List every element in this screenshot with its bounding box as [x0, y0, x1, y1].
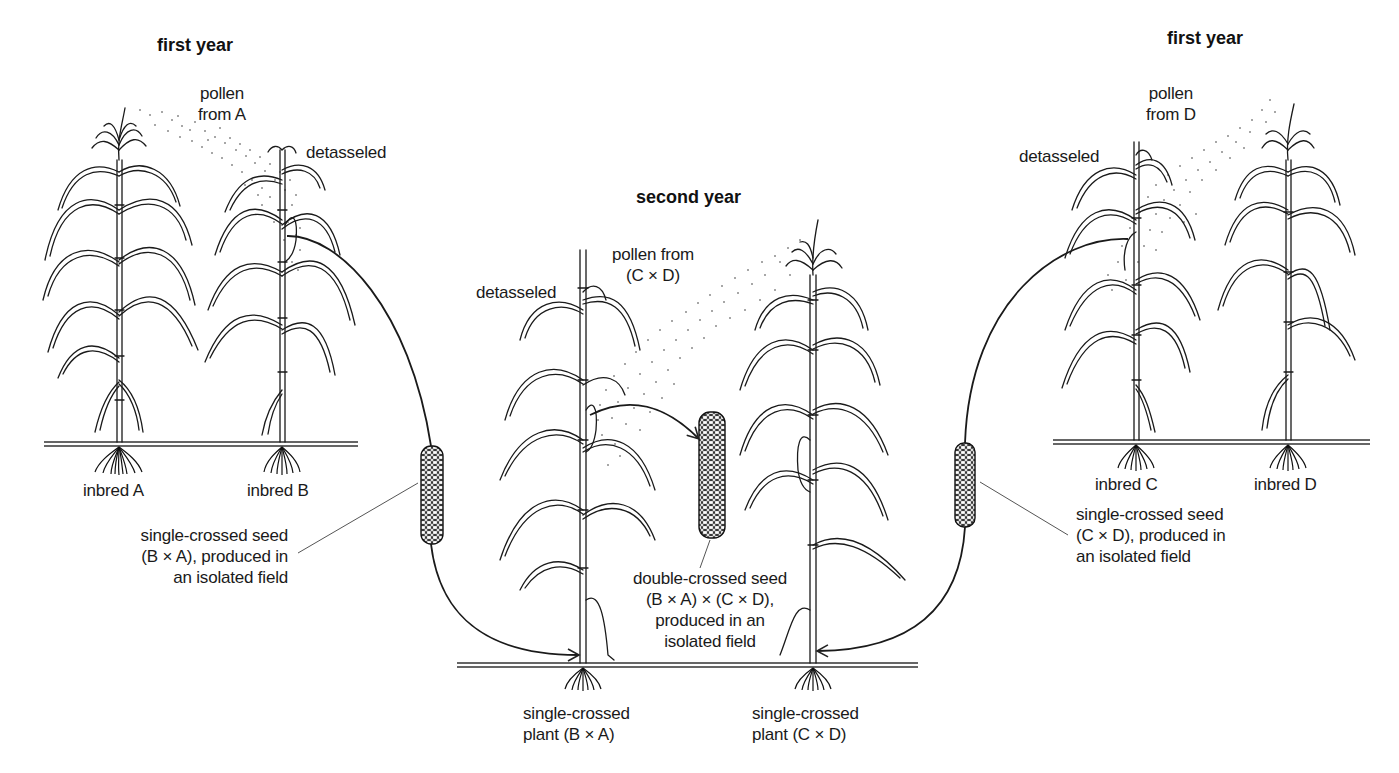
arrow-cob-to-plant-cd — [818, 527, 965, 651]
label-inbred-a: inbred A — [83, 480, 144, 501]
arrow-c-to-cob — [965, 239, 1128, 443]
cob-single-crossed-ba — [421, 446, 443, 544]
plant-inbred-d — [1218, 104, 1355, 440]
label-pollen-from-a: pollen from A — [198, 83, 246, 125]
arrow-b-to-cob — [287, 236, 431, 446]
cob-double-crossed — [699, 412, 725, 538]
cob-single-crossed-cd — [955, 443, 975, 527]
corn-cobs — [421, 412, 975, 544]
heading-first-year-left: first year — [157, 35, 233, 56]
label-detasseled-right: detasseled — [1019, 146, 1099, 167]
label-single-crossed-plant-cd: single-crossed plant (C × D) — [752, 703, 859, 745]
label-single-crossed-seed-cd: single-crossed seed (C × D), produced in… — [1076, 504, 1226, 567]
label-inbred-d: inbred D — [1254, 474, 1317, 495]
label-single-crossed-seed-ba: single-crossed seed (B × A), produced in… — [112, 525, 288, 588]
plant-inbred-c — [1062, 142, 1200, 440]
plant-inbred-b — [205, 146, 355, 442]
label-single-crossed-plant-ba: single-crossed plant (B × A) — [523, 703, 630, 745]
label-double-crossed-seed: double-crossed seed (B × A) × (C × D), p… — [614, 568, 806, 652]
heading-first-year-right: first year — [1167, 28, 1243, 49]
label-detasseled-left: detasseled — [306, 142, 386, 163]
label-pollen-from-cd: pollen from (C × D) — [612, 244, 694, 286]
label-pollen-from-d: pollen from D — [1146, 83, 1196, 125]
label-inbred-b: inbred B — [247, 480, 309, 501]
plant-inbred-a — [43, 108, 198, 442]
heading-second-year: second year — [636, 187, 741, 208]
leader-lines — [298, 482, 1068, 568]
label-inbred-c: inbred C — [1095, 474, 1158, 495]
arrow-plant-to-double-cob — [590, 405, 698, 438]
label-detasseled-center: detasseled — [476, 282, 556, 303]
arrow-cob-to-plant-ba — [431, 544, 578, 655]
